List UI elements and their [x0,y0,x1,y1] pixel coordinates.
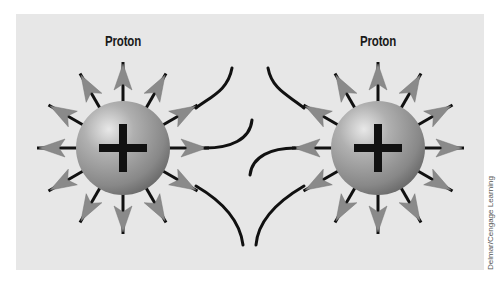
field-diagram [0,0,500,283]
credit-text: Delmar/Cengage Learning [486,176,495,270]
field-lines-between [196,68,304,245]
proton-left [37,62,209,234]
proton-label-left: Proton [90,33,156,49]
proton-right [292,62,464,234]
proton-label-right: Proton [345,33,411,49]
field-arrows-right [292,62,464,234]
field-arrows-left [37,62,209,234]
